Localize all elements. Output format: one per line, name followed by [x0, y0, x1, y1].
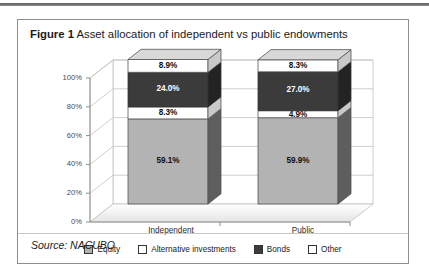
chart-canvas: 100% 80% 60% 40% 20% 0% Independent Publ…	[18, 46, 408, 232]
data-label-independent-equity: 59.1%	[128, 156, 208, 165]
data-label-public-equity: 59.9%	[258, 156, 338, 165]
legend-swatch-alternative-icon	[138, 245, 147, 254]
data-label-independent-other: 8.9%	[128, 61, 208, 70]
top-rule-divider	[0, 3, 429, 6]
figure-label: Figure 1	[30, 28, 74, 40]
figure-caption: Figure 1 Asset allocation of independent…	[30, 28, 348, 40]
legend-swatch-bonds-icon	[254, 245, 263, 254]
y-tick-label-0: 0%	[52, 217, 82, 226]
figure-title: Asset allocation of independent vs publi…	[76, 28, 347, 40]
y-tick-label-40: 40%	[52, 159, 82, 168]
data-label-independent-alternative: 8.3%	[128, 108, 208, 117]
data-label-public-other: 8.3%	[258, 61, 338, 70]
figure-source: Source: NACUBO	[31, 239, 115, 251]
y-tick-label-100: 100%	[52, 73, 82, 82]
data-label-public-alternative: 4.9%	[258, 110, 338, 119]
y-axis	[86, 78, 90, 222]
legend-label-bonds: Bonds	[267, 245, 290, 254]
legend-item-bonds[interactable]: Bonds	[254, 245, 290, 254]
chart-side-wall	[90, 60, 113, 222]
chart-floor	[90, 204, 373, 222]
legend-item-other[interactable]: Other	[308, 245, 341, 254]
data-label-public-bonds: 27.0%	[258, 85, 338, 94]
figure-page: Figure 1 Asset allocation of independent…	[0, 0, 429, 275]
legend-label-other: Other	[321, 245, 341, 254]
source-divider	[18, 233, 408, 234]
legend-swatch-other-icon	[308, 245, 317, 254]
y-tick-label-20: 20%	[52, 188, 82, 197]
legend-label-alternative: Alternative investments	[151, 245, 236, 254]
y-tick-label-60: 60%	[52, 131, 82, 140]
plot-area: 100% 80% 60% 40% 20% 0% Independent Publ…	[18, 46, 408, 232]
data-label-independent-bonds: 24.0%	[128, 84, 208, 93]
legend-item-alternative[interactable]: Alternative investments	[138, 245, 236, 254]
y-tick-label-80: 80%	[52, 102, 82, 111]
figure-container: Figure 1 Asset allocation of independent…	[17, 19, 409, 264]
